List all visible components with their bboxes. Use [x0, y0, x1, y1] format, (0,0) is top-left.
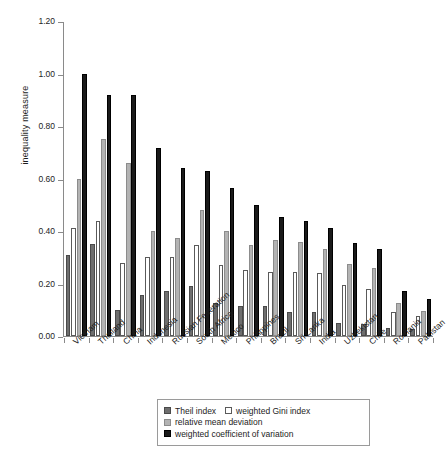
bar [249, 245, 254, 336]
legend-label-theil-index: Theil index [175, 406, 216, 416]
bar [391, 312, 396, 336]
bar-group [187, 22, 212, 336]
legend-label-relative-mean-deviation: relative mean deviation [175, 417, 262, 427]
bar-group [236, 22, 261, 336]
y-axis-tick-label: 0.60 [38, 174, 55, 184]
legend-item-relative-mean-deviation: relative mean deviation [164, 417, 262, 427]
legend-swatch-relative-mean-deviation [164, 419, 171, 426]
bar [328, 228, 333, 336]
legend-row: weighted coefficient of variation [164, 429, 364, 439]
y-axis-tick: 0.80 [58, 127, 63, 128]
y-axis-label: inequality measure [20, 45, 30, 205]
legend-row: Theil index weighted Gini index [164, 406, 364, 416]
bar [96, 221, 101, 337]
bar-group [162, 22, 187, 336]
y-axis-tick: 0.20 [58, 285, 63, 286]
legend-swatch-theil-index [164, 407, 171, 414]
y-axis-tick-label: 0.20 [38, 279, 55, 289]
bar-group [384, 22, 409, 336]
legend-item-weighted-coefficient-of-variation: weighted coefficient of variation [164, 429, 293, 439]
bar [145, 257, 150, 336]
legend-item-theil-index: Theil index [164, 406, 216, 416]
bar-group [359, 22, 384, 336]
bar [181, 168, 186, 336]
bar-group [285, 22, 310, 336]
legend-swatch-weighted-coefficient-of-variation [164, 430, 171, 437]
bar [353, 243, 358, 336]
legend-item-weighted-gini-index: weighted Gini index [225, 406, 310, 416]
bar [77, 179, 82, 337]
bar [342, 285, 347, 336]
y-axis-tick-label: 1.20 [38, 16, 55, 26]
bar [293, 272, 298, 336]
bar [304, 221, 309, 337]
plot-area: 0.000.200.400.600.801.001.20 [63, 22, 433, 337]
bar [151, 231, 156, 336]
bar-group [89, 22, 114, 336]
x-axis-labels: VietnamThailandChinaIndonesiaRussian Fed… [63, 339, 435, 397]
bar [107, 95, 112, 337]
bar-group [138, 22, 163, 336]
y-axis-tick-label: 1.00 [38, 69, 55, 79]
bar [372, 268, 377, 336]
y-axis-tick: 1.20 [58, 22, 63, 23]
y-axis-tick: 1.00 [58, 75, 63, 76]
bar [66, 255, 71, 336]
bar [347, 264, 352, 336]
bar-group [408, 22, 433, 336]
y-axis-tick: 0.60 [58, 180, 63, 181]
bar [82, 74, 87, 337]
bar-groups [64, 22, 433, 336]
legend-swatch-weighted-gini-index [225, 407, 232, 414]
legend-label-weighted-gini-index: weighted Gini index [236, 406, 310, 416]
bar-group [335, 22, 360, 336]
bar-group [310, 22, 335, 336]
y-axis-tick: 0.00 [58, 337, 63, 338]
bar [71, 228, 76, 336]
legend-label-weighted-coefficient-of-variation: weighted coefficient of variation [175, 429, 293, 439]
bar [377, 249, 382, 336]
bar-group [261, 22, 286, 336]
y-axis-tick-label: 0.00 [38, 331, 55, 341]
bar [126, 163, 131, 336]
bar [156, 148, 161, 336]
legend-row: relative mean deviation [164, 417, 364, 427]
bar [298, 242, 303, 337]
bar [131, 95, 136, 337]
bar [101, 139, 106, 336]
y-axis-tick-label: 0.80 [38, 121, 55, 131]
bar [254, 205, 259, 336]
bar-group [113, 22, 138, 336]
y-axis-tick-label: 0.40 [38, 226, 55, 236]
chart-legend: Theil index weighted Gini index relative… [157, 399, 370, 446]
bar-group [64, 22, 89, 336]
y-axis-tick: 0.40 [58, 232, 63, 233]
